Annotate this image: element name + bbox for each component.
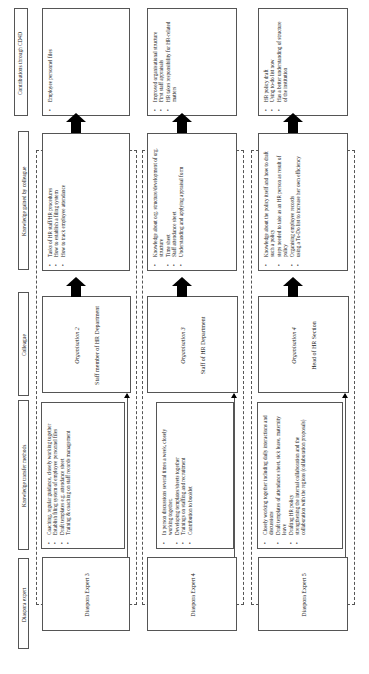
expert-box: Diaspora Expert 3	[42, 557, 130, 631]
bullet-list: HR policy draftUsing to-do list nowHas a…	[263, 17, 289, 111]
expert-box: Diaspora Expert 5	[258, 557, 348, 631]
org-label: Organisation 2	[74, 301, 80, 390]
header-label: Diaspora expert	[21, 587, 27, 621]
box-text: Diaspora Expert 5	[301, 562, 307, 628]
box-text: Diaspora Expert 3	[84, 562, 90, 628]
bullet-item: Understanding and applying appraisal for…	[178, 142, 184, 266]
header-diaspora-expert: Diaspora expert	[18, 558, 29, 649]
bullet-item: Has a better understanding of structure …	[276, 17, 289, 111]
arrowhead-icon	[342, 393, 348, 398]
knowledge-box: Knowledge about org. structure/developme…	[147, 133, 237, 271]
knowledge-box: Knowledge about the policy itself and ho…	[258, 133, 348, 271]
box-label: Diaspora Expert 5	[301, 562, 307, 628]
arrow-knowledge-to-contribution-icon-stem	[177, 121, 187, 133]
bullet-list: In person discussions several times a we…	[161, 411, 193, 544]
box-text: Organisation 4Head of HR Section	[291, 301, 318, 390]
org-label: Organisation 4	[291, 301, 297, 390]
header-colleague: Colleague	[18, 292, 29, 396]
arrowhead-icon	[231, 393, 237, 398]
expert-box: Diaspora Expert 4	[147, 557, 237, 631]
box-label: Head of HR Section	[311, 301, 317, 390]
arrow-colleague-to-knowledge-icon-stem	[177, 285, 187, 297]
bullet-item: using a To-Do list to increase her own e…	[295, 142, 301, 266]
org-label: Organisation 3	[180, 301, 186, 390]
box-label: Diaspora Expert 3	[84, 562, 90, 628]
methods-box: Coaching, regular guidance, closely work…	[41, 402, 125, 549]
box-label: Diaspora Expert 4	[190, 562, 196, 628]
bullet-list: Improved organisational structureFirst s…	[152, 17, 178, 111]
bullet-item: Closely working together including daily…	[262, 411, 275, 544]
arrow-knowledge-to-contribution-icon-stem	[71, 121, 81, 133]
arrow-colleague-to-knowledge-icon-stem	[71, 285, 81, 297]
colleague-box: Organisation 3Staff of HR Department	[147, 296, 238, 393]
colleague-box: Organisation 2Staff member of HR Departm…	[42, 296, 131, 393]
bullet-item: Employee personnel files	[47, 17, 53, 111]
bullet-item: Contribution to booklet	[187, 411, 193, 544]
arrowhead-icon	[124, 393, 130, 398]
bullet-item: Training & coaching on staff records man…	[65, 411, 71, 544]
methods-box: Closely working together including daily…	[257, 402, 343, 549]
header-knowledge-transfer-methods: Knowledge transfer methods	[18, 400, 29, 550]
box-label: Staff of HR Department	[200, 301, 206, 390]
box-text: Diaspora Expert 4	[190, 562, 196, 628]
contribution-box: Improved organisational structureFirst s…	[147, 8, 237, 116]
arrow-colleague-to-knowledge-icon-stem	[288, 285, 298, 297]
bullet-item: Knowledge about org. structure/developme…	[152, 142, 165, 266]
bullet-item: strengthening the internal collaboration…	[294, 411, 307, 544]
bullet-item: Knowledge about the policy itself and ho…	[263, 142, 276, 266]
connector-line	[345, 394, 346, 557]
header-knowledge-gained: Knowledge gained by colleague	[18, 131, 29, 270]
knowledge-box: Tasks of HR staff/HR proceduresHow to es…	[42, 133, 130, 271]
bullet-list: Tasks of HR staff/HR proceduresHow to es…	[47, 142, 66, 266]
bullet-item: Draft templates of attendance sheet, sic…	[275, 411, 288, 544]
bullet-item: How to track employee attendance	[60, 142, 66, 266]
contribution-box: HR policy draftUsing to-do list nowHas a…	[258, 8, 348, 116]
connector-line	[127, 394, 128, 557]
connector-line	[234, 394, 235, 557]
header-label: Knowledge transfer methods	[21, 445, 27, 507]
bullet-list: Coaching, regular guidance, closely work…	[46, 411, 72, 544]
colleague-box: Organisation 4Head of HR Section	[258, 296, 349, 393]
contribution-box: Employee personnel files	[42, 8, 130, 116]
header-contributions: Contributions through CD4D	[14, 8, 28, 116]
header-label: Knowledge gained by colleague	[21, 167, 27, 236]
header-label: Colleague	[21, 334, 27, 356]
bullet-item: In person discussions several times a we…	[161, 411, 174, 544]
bullet-item: steps needed to take as an HR person as …	[276, 142, 289, 266]
bullet-list: Closely working together including daily…	[262, 411, 307, 544]
bullet-list: Knowledge about org. structure/developme…	[152, 142, 184, 266]
box-label: Staff member of HR Department	[94, 301, 100, 390]
arrow-knowledge-to-contribution-icon-stem	[288, 121, 298, 133]
header-label: Contributions through CD4D	[17, 31, 23, 94]
methods-box: In person discussions several times a we…	[156, 402, 234, 549]
bullet-list: Knowledge about the policy itself and ho…	[263, 142, 301, 266]
bullet-list: Employee personnel files	[47, 17, 53, 111]
bullet-item: HR takes responsibility for HR-related m…	[165, 17, 178, 111]
box-text: Organisation 2Staff member of HR Departm…	[74, 301, 101, 390]
box-text: Organisation 3Staff of HR Department	[180, 301, 207, 390]
